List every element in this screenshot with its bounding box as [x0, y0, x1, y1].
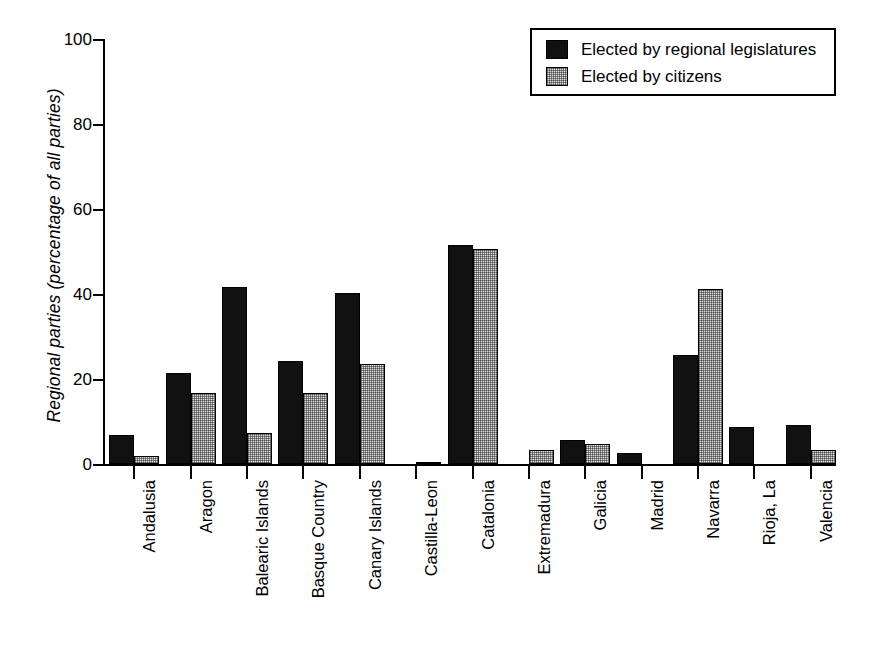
legend: Elected by regional legislatures Elected…	[530, 28, 836, 96]
x-axis-category-labels: AndalusiaAragonBalearic IslandsBasque Co…	[103, 466, 836, 648]
bar	[360, 364, 385, 464]
bar	[617, 453, 642, 464]
bar	[698, 289, 723, 464]
legend-swatch-icon	[546, 40, 568, 59]
x-axis-category-label: Balearic Islands	[254, 480, 271, 596]
bar	[560, 440, 585, 464]
bar	[109, 435, 134, 464]
x-axis-category-label: Valencia	[818, 480, 835, 542]
bar	[473, 249, 498, 464]
bar	[811, 450, 836, 464]
bar	[134, 456, 159, 464]
bar	[335, 293, 360, 464]
legend-item-elected-by-citizens: Elected by citizens	[546, 65, 722, 87]
bar	[729, 427, 754, 464]
y-axis-tick-label: 80	[46, 116, 92, 133]
y-axis-tick-label: 0	[46, 456, 92, 473]
x-axis-category-label: Madrid	[649, 480, 666, 530]
bar	[166, 373, 191, 464]
legend-item-elected-by-regional-legislatures: Elected by regional legislatures	[546, 38, 816, 60]
bar	[247, 433, 272, 464]
legend-item-label: Elected by citizens	[581, 67, 722, 86]
y-axis-tick-label: 100	[46, 31, 92, 48]
bar	[303, 393, 328, 464]
y-axis-tick-labels: 020406080100	[30, 0, 92, 648]
x-axis-category-label: Canary Islands	[367, 480, 384, 590]
bars-layer	[103, 39, 836, 465]
bar	[191, 393, 216, 464]
y-axis-tick-label: 60	[46, 201, 92, 218]
bar	[448, 245, 473, 464]
bar	[278, 361, 303, 464]
bar	[222, 287, 247, 464]
x-axis-category-label: Navarra	[705, 480, 722, 539]
y-axis-tick-label: 40	[46, 286, 92, 303]
bar	[416, 462, 441, 464]
bar	[585, 444, 610, 464]
x-axis-category-label: Galicia	[592, 480, 609, 530]
plot-area	[103, 39, 836, 465]
x-axis-category-label: Andalusia	[141, 480, 158, 552]
x-axis-category-label: Catalonia	[480, 480, 497, 550]
x-axis-category-label: Extremadura	[536, 480, 553, 574]
bar	[529, 450, 554, 464]
bar	[786, 425, 811, 464]
bar	[673, 355, 698, 464]
x-axis-category-label: Castilla-Leon	[423, 480, 440, 576]
legend-item-label: Elected by regional legislatures	[581, 40, 816, 59]
bar-chart: Regional parties (percentage of all part…	[0, 0, 886, 648]
x-axis-category-label: Basque Country	[310, 480, 327, 598]
y-axis-tick-label: 20	[46, 371, 92, 388]
x-axis-category-label: Aragon	[198, 480, 215, 533]
x-axis-category-label: Rioja, La	[761, 480, 778, 545]
legend-swatch-icon	[546, 67, 568, 86]
